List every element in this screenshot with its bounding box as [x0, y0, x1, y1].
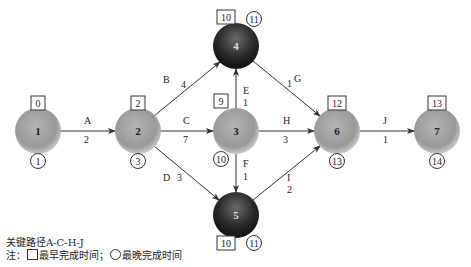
edge-C-duration: 7: [183, 134, 188, 145]
square-legend-icon: [27, 249, 38, 260]
edge-E-duration: 1: [243, 97, 248, 108]
node-label: 1: [35, 125, 41, 137]
node-5: 51011: [213, 192, 262, 251]
edge-A-activity: A: [84, 115, 92, 126]
earliest-time: 0: [36, 98, 41, 109]
edge-I-duration: 2: [287, 184, 292, 195]
edge-H-activity: H: [283, 115, 290, 126]
node-label: 4: [233, 40, 239, 52]
edge-G-duration: 1: [287, 78, 292, 89]
earliest-time: 10: [221, 238, 231, 249]
edge-J-activity: J: [383, 115, 387, 126]
earliest-time: 12: [332, 98, 342, 109]
node-7: 71314: [414, 96, 460, 169]
node-2: 223: [115, 96, 161, 169]
edge-F-duration: 1: [243, 171, 248, 182]
earliest-time: 10: [221, 12, 231, 23]
node-label: 6: [334, 125, 340, 137]
node-label: 2: [135, 125, 141, 137]
legend-prefix: 注：: [6, 250, 26, 261]
earliest-time: 9: [219, 96, 224, 107]
circle-legend-icon: [110, 249, 121, 260]
latest-time: 10: [216, 154, 226, 165]
critical-path-note: 关键路径A-C-H-J: [6, 236, 84, 249]
node-4: 41011: [213, 10, 262, 69]
legend-note: 注：最早完成时间；最晚完成时间: [6, 249, 182, 262]
edge-C-activity: C: [183, 115, 190, 126]
legend-square-text: 最早完成时间；: [39, 250, 109, 261]
latest-time: 11: [249, 14, 259, 25]
latest-time: 3: [136, 156, 141, 167]
node-label: 7: [434, 125, 440, 137]
latest-time: 13: [332, 156, 342, 167]
edge-B-activity: B: [163, 74, 170, 85]
edge-D-duration: 3: [177, 172, 182, 183]
edge-G-activity: G: [294, 73, 301, 84]
earliest-time: 2: [136, 98, 141, 109]
edge-I-activity: I: [287, 172, 290, 183]
latest-time: 14: [432, 156, 442, 167]
edge-D-activity: D: [163, 172, 170, 183]
node-6: 61213: [314, 96, 360, 169]
earliest-time: 13: [432, 98, 442, 109]
edge-F-activity: F: [243, 158, 249, 169]
edge-J-duration: 1: [383, 134, 388, 145]
edge-E-activity: E: [243, 85, 249, 96]
edge-H-duration: 3: [283, 134, 288, 145]
latest-time: 11: [249, 238, 259, 249]
latest-time: 1: [36, 156, 41, 167]
critical-path-text: 关键路径A-C-H-J: [6, 237, 84, 248]
node-1: 101: [15, 96, 61, 169]
node-label: 3: [233, 125, 239, 137]
edge-B: [154, 62, 220, 116]
node-label: 5: [233, 209, 239, 221]
edge-B-duration: 4: [181, 79, 186, 90]
edge-A-duration: 2: [84, 134, 89, 145]
network-diagram: A 2 B 4 C 7 D 3 E 1 F 1 G 1 H 3 I 2 J 1 …: [0, 0, 471, 267]
legend-circle-text: 最晚完成时间: [122, 250, 182, 261]
